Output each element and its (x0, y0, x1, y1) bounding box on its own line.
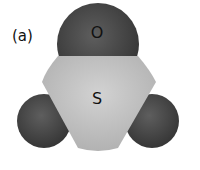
atom-label-oxygen: O (91, 23, 104, 42)
panel-label: (a) (12, 27, 33, 45)
atom-label-sulfur: S (92, 89, 102, 108)
molecule-diagram: O S (a) (0, 0, 200, 170)
